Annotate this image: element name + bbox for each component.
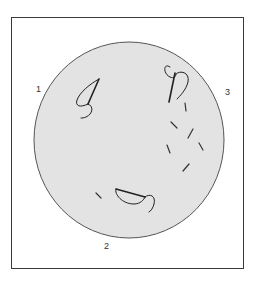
dish-circle [34, 42, 224, 238]
label-3: 3 [225, 88, 230, 97]
label-1: 1 [36, 85, 41, 94]
petri-dish-diagram [0, 0, 254, 281]
label-2: 2 [104, 242, 109, 251]
